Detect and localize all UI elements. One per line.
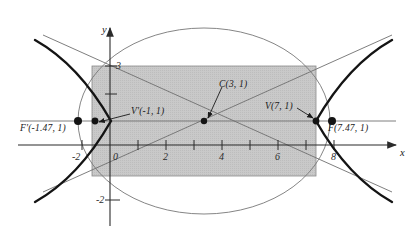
vertex-left-dot	[92, 118, 99, 125]
vertex-left-label: V'(-1, 1)	[131, 107, 164, 117]
x-tick-6: 6	[275, 152, 280, 162]
y-tick-minus2: -2	[96, 195, 104, 205]
focus-right-label: F(7.47, 1)	[328, 124, 368, 134]
x-tick-minus2: -2	[72, 152, 80, 162]
focus-left-dot	[74, 117, 82, 125]
y-tick-3: 3	[116, 61, 121, 71]
x-tick-8: 8	[331, 152, 336, 162]
center-point-label: C(3, 1)	[219, 80, 247, 90]
hyperbola-figure: y x 3 -2 -2 0 2 4 6 8 C(3, 1) V(7, 1) V'…	[0, 0, 420, 233]
x-tick-2: 2	[163, 152, 168, 162]
figure-canvas	[0, 0, 420, 233]
x-tick-0: 0	[113, 152, 118, 162]
x-axis-label: x	[400, 148, 405, 159]
vertex-right-dot	[313, 118, 320, 125]
x-tick-4: 4	[219, 152, 224, 162]
vertex-right-label: V(7, 1)	[265, 102, 293, 112]
center-dot	[201, 118, 207, 124]
y-axis-label: y	[102, 25, 107, 36]
focus-left-label: F'(-1.47, 1)	[20, 124, 66, 134]
